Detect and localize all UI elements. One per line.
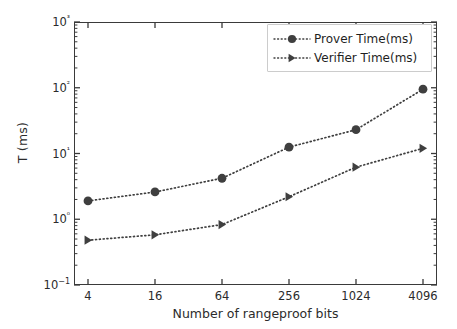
x-tick-label: 1024 — [341, 289, 370, 303]
y-tick-label: 10¹ — [52, 147, 70, 161]
y-tick-label: 10³ — [52, 15, 70, 29]
legend-item-verifier[interactable]: Verifier Time(ms) — [272, 48, 425, 67]
y-axis-tick-labels: 10−110⁰10¹10²10³ — [26, 0, 70, 329]
chart-legend: Prover Time(ms) Verifier Time(ms) — [267, 24, 432, 72]
x-tick-label: 16 — [148, 289, 163, 303]
legend-item-prover[interactable]: Prover Time(ms) — [272, 29, 425, 48]
triangle-marker-icon — [272, 51, 312, 65]
x-tick-label: 4 — [84, 289, 91, 303]
legend-label-verifier: Verifier Time(ms) — [314, 51, 417, 65]
x-axis-label: Number of rangeproof bits — [74, 306, 437, 321]
y-axis-label: T (ms) — [15, 103, 30, 183]
x-tick-label: 4096 — [408, 289, 437, 303]
x-tick-label: 64 — [215, 289, 230, 303]
x-tick-label: 256 — [278, 289, 300, 303]
chart-figure: 10−110⁰10¹10²10³ T (ms) 4166425610244096… — [0, 0, 457, 329]
y-tick-label: 10² — [52, 81, 70, 95]
y-tick-label: 10⁰ — [52, 212, 70, 226]
circle-marker-icon — [272, 32, 312, 46]
legend-label-prover: Prover Time(ms) — [314, 32, 413, 46]
x-axis-tick-labels: 4166425610244096 — [0, 289, 457, 307]
